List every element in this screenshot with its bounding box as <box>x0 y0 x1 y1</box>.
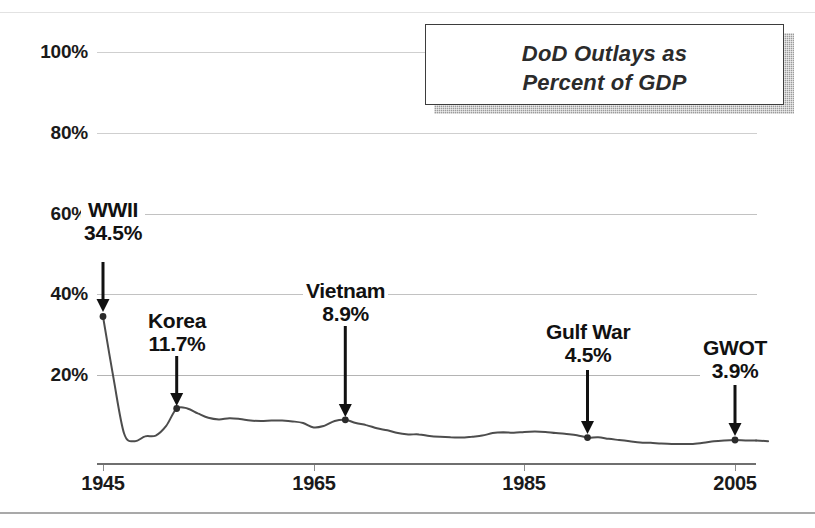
x-axis-label-1945: 1945 <box>58 472 148 495</box>
annotation-value: 34.5% <box>84 221 142 245</box>
slide-top-rule <box>0 12 815 13</box>
data-marker-wwii <box>100 313 107 320</box>
annotation-label: WWII <box>84 198 142 221</box>
annotation-label: Vietnam <box>306 279 385 302</box>
annotation-wwii: WWII34.5% <box>81 198 145 245</box>
gridline-60 <box>97 214 757 215</box>
chart-title-line-2: Percent of GDP <box>426 68 783 97</box>
x-axis-label-1985: 1985 <box>479 472 569 495</box>
x-axis-tick-2005 <box>735 465 736 471</box>
x-axis-label-2005: 2005 <box>690 472 780 495</box>
annotation-gulf-war: Gulf War4.5% <box>543 320 633 367</box>
annotation-korea: Korea11.7% <box>145 309 209 356</box>
data-marker-korea <box>173 405 180 412</box>
chart-title-line-1: DoD Outlays as <box>426 39 783 68</box>
data-marker-gulf-war <box>584 434 591 441</box>
gridline-20 <box>97 375 757 376</box>
annotation-arrow-head-korea <box>170 393 183 406</box>
gridline-40 <box>97 294 757 295</box>
annotation-gwot: GWOT3.9% <box>700 336 770 383</box>
x-axis-tick-1945 <box>103 465 104 471</box>
y-axis-label-20: 20% <box>0 365 88 384</box>
annotation-label: Korea <box>148 309 206 332</box>
data-marker-vietnam <box>342 416 349 423</box>
y-axis-label-60: 60% <box>0 204 88 223</box>
annotation-arrow-head-gwot <box>729 423 742 436</box>
data-line-tail <box>756 440 768 441</box>
annotation-arrow-head-gulf-war <box>581 421 594 434</box>
annotation-arrow-head-vietnam <box>339 404 352 417</box>
annotation-vietnam: Vietnam8.9% <box>303 279 388 326</box>
annotation-value: 4.5% <box>546 343 630 367</box>
annotation-label: GWOT <box>703 336 767 359</box>
title-callout-box: DoD Outlays as Percent of GDP <box>425 24 784 105</box>
data-marker-gwot <box>732 437 739 444</box>
annotation-value: 8.9% <box>306 302 385 326</box>
y-axis-label-100: 100% <box>0 42 88 61</box>
slide-canvas: 100%80%60%40%20% 1945196519852005 WWII34… <box>0 0 815 528</box>
slide-bottom-rule <box>0 512 815 514</box>
annotation-value: 11.7% <box>148 332 206 356</box>
y-axis-label-80: 80% <box>0 123 88 142</box>
x-axis-label-1965: 1965 <box>269 472 359 495</box>
annotation-label: Gulf War <box>546 320 630 343</box>
chart-title: DoD Outlays as Percent of GDP <box>426 39 783 97</box>
y-axis-label-40: 40% <box>0 284 88 303</box>
x-axis-line <box>97 463 756 465</box>
gridline-80 <box>97 133 757 134</box>
x-axis-tick-1965 <box>314 465 315 471</box>
annotation-value: 3.9% <box>703 359 767 383</box>
x-axis-tick-1985 <box>524 465 525 471</box>
annotation-arrow-head-wwii <box>97 299 110 312</box>
